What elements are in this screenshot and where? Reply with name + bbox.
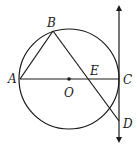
geometry-figure: B A O E C D xyxy=(0,0,137,148)
label-a: A xyxy=(7,72,17,86)
label-e: E xyxy=(89,64,99,78)
label-o: O xyxy=(64,86,74,100)
diagram-canvas: B A O E C D xyxy=(0,0,137,148)
label-d: D xyxy=(122,117,133,131)
line-bd xyxy=(53,31,119,121)
label-b: B xyxy=(46,16,56,30)
label-c: C xyxy=(123,73,132,87)
center-point-o xyxy=(67,77,71,81)
